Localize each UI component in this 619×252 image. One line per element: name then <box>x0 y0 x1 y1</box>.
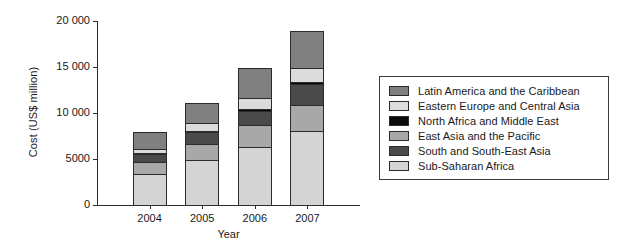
bar-segment[interactable] <box>238 111 272 127</box>
bar-segment[interactable] <box>185 160 219 206</box>
bar-segment[interactable] <box>133 132 167 149</box>
y-tick-label: 0 <box>30 198 97 210</box>
legend-swatch-icon <box>389 131 409 141</box>
bar-2004[interactable] <box>133 132 167 205</box>
legend-item[interactable]: East Asia and the Pacific <box>389 128 600 143</box>
bar-segment[interactable] <box>290 84 324 106</box>
legend-item[interactable]: South and South-East Asia <box>389 143 600 158</box>
bar-segment[interactable] <box>185 144 219 162</box>
bar-segment[interactable] <box>290 105 324 133</box>
bar-segment[interactable] <box>290 131 324 206</box>
x-tick-label-2007: 2007 <box>277 212 337 224</box>
x-tick-label-2006: 2006 <box>225 212 285 224</box>
bar-segment[interactable] <box>290 68 324 83</box>
plot-area: 0500010 00015 00020 0002004200520062007 <box>97 21 360 205</box>
bar-segment[interactable] <box>185 103 219 124</box>
bar-segment[interactable] <box>133 174 167 206</box>
y-axis-line <box>97 21 98 205</box>
legend-item[interactable]: Sub-Saharan Africa <box>389 158 600 173</box>
legend-item[interactable]: North Africa and Middle East <box>389 113 600 128</box>
legend-swatch-icon <box>389 161 409 171</box>
legend-item-label: East Asia and the Pacific <box>418 130 540 142</box>
legend-item-label: Latin America and the Caribbean <box>418 85 580 97</box>
bar-2007[interactable] <box>290 31 324 205</box>
legend-swatch-icon <box>389 101 409 111</box>
y-tick-label: 20 000 <box>30 14 97 26</box>
legend-item-label: Eastern Europe and Central Asia <box>418 100 580 112</box>
bar-segment[interactable] <box>238 147 272 206</box>
bar-segment[interactable] <box>238 68 272 98</box>
bar-2005[interactable] <box>185 103 219 205</box>
chart-legend: Latin America and the CaribbeanEastern E… <box>379 76 609 180</box>
legend-item[interactable]: Eastern Europe and Central Asia <box>389 98 600 113</box>
bar-2006[interactable] <box>238 68 272 205</box>
bar-segment[interactable] <box>238 125 272 148</box>
legend-swatch-icon <box>389 116 409 126</box>
stacked-bar-chart-figure: Cost (US$ million) 0500010 00015 00020 0… <box>0 0 619 252</box>
x-axis-label: Year <box>97 228 360 240</box>
legend-item-label: North Africa and Middle East <box>418 115 559 127</box>
legend-swatch-icon <box>389 146 409 156</box>
y-tick-label: 15 000 <box>30 60 97 72</box>
x-tick-label-2005: 2005 <box>172 212 232 224</box>
legend-item-label: South and South-East Asia <box>418 145 551 157</box>
legend-item-label: Sub-Saharan Africa <box>418 160 514 172</box>
legend-swatch-icon <box>389 86 409 96</box>
bar-segment[interactable] <box>290 31 324 69</box>
legend-item[interactable]: Latin America and the Caribbean <box>389 83 600 98</box>
y-tick-label: 5000 <box>30 152 97 164</box>
y-tick-label: 10 000 <box>30 106 97 118</box>
x-tick-label-2004: 2004 <box>120 212 180 224</box>
